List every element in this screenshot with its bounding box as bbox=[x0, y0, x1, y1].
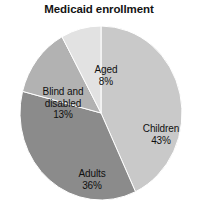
pie-label-adults: Adults 36% bbox=[62, 168, 122, 191]
pie-label-children-name: Children bbox=[130, 123, 192, 135]
pie-label-children: Children 43% bbox=[130, 123, 192, 146]
pie-label-aged: Aged 8% bbox=[82, 64, 130, 87]
pie-label-children-percent: 43% bbox=[130, 135, 192, 147]
pie-label-blind-and-disabled-percent: 13% bbox=[26, 109, 100, 121]
pie-label-blind-and-disabled: Blind and disabled 13% bbox=[26, 86, 100, 121]
chart-screen: Medicaid enrollment Aged 8% Blind and di… bbox=[0, 0, 198, 208]
chart-title: Medicaid enrollment bbox=[0, 2, 198, 16]
pie-label-blind-and-disabled-name: Blind and disabled bbox=[26, 86, 100, 109]
pie-chart: Aged 8% Blind and disabled 13% Children … bbox=[20, 26, 182, 200]
pie-label-aged-name: Aged bbox=[82, 64, 130, 76]
pie-label-adults-name: Adults bbox=[62, 168, 122, 180]
pie-label-adults-percent: 36% bbox=[62, 180, 122, 192]
